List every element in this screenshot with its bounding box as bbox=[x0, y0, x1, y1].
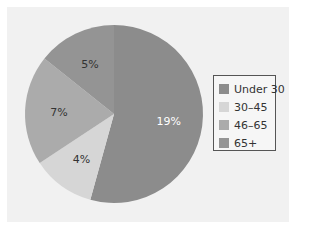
legend-label: 65+ bbox=[234, 137, 257, 150]
legend-item-under-30: Under 30 bbox=[219, 80, 275, 98]
legend-item-65-plus: 65+ bbox=[219, 134, 275, 152]
legend-label: 30–45 bbox=[234, 101, 268, 114]
legend-label: Under 30 bbox=[234, 83, 285, 96]
legend-swatch bbox=[219, 120, 229, 130]
legend-swatch bbox=[219, 138, 229, 148]
legend-swatch bbox=[219, 102, 229, 112]
slice-label-under-30: 19% bbox=[156, 115, 180, 128]
slice-label-30-45: 4% bbox=[73, 152, 90, 165]
legend-swatch bbox=[219, 84, 229, 94]
legend-label: 46–65 bbox=[234, 119, 268, 132]
legend-item-30-45: 30–45 bbox=[219, 98, 275, 116]
slice-label-65-plus: 5% bbox=[81, 58, 98, 71]
slice-label-46-65: 7% bbox=[50, 105, 67, 118]
legend: Under 30 30–45 46–65 65+ bbox=[213, 75, 276, 151]
legend-item-46-65: 46–65 bbox=[219, 116, 275, 134]
